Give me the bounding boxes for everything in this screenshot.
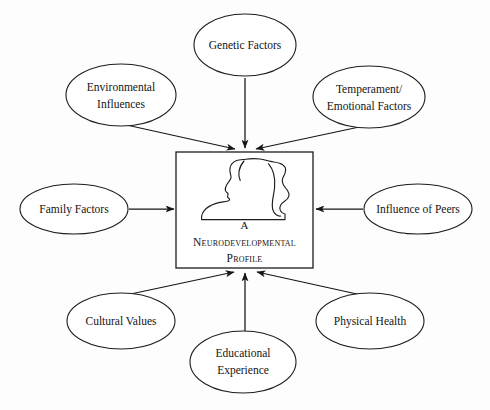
node-influence-of-peers[interactable]: Influence of Peers [364, 184, 472, 234]
arrow-temperament-emotional-factors [256, 126, 364, 149]
node-temperament-emotional-factors-shape [313, 66, 425, 128]
center-node[interactable]: A Neurodevelopmental Profile [176, 152, 313, 268]
node-environmental-influences-shape [66, 64, 176, 126]
node-genetic-factors-label-line1: Genetic Factors [209, 39, 282, 51]
node-physical-health-label-line1: Physical Health [334, 315, 407, 328]
node-family-factors-label-line1: Family Factors [39, 203, 109, 216]
scan-speck [403, 232, 405, 234]
center-title-line2: Neurodevelopmental [193, 236, 296, 248]
neurodevelopmental-profile-diagram: A Neurodevelopmental Profile Genetic Fac… [0, 0, 490, 410]
node-educational-experience-label-line2: Experience [217, 364, 269, 377]
arrow-cultural-values [126, 272, 234, 295]
node-cultural-values[interactable]: Cultural Values [67, 293, 175, 349]
node-environmental-influences[interactable]: Environmental Influences [66, 64, 176, 126]
node-temperament-emotional-factors-label-line1: Temperament/ [336, 83, 403, 96]
node-educational-experience-shape [190, 331, 296, 393]
node-family-factors[interactable]: Family Factors [20, 184, 128, 234]
node-environmental-influences-label-line2: Influences [97, 98, 145, 110]
center-title-line1: A [240, 219, 248, 231]
node-environmental-influences-label-line1: Environmental [87, 81, 155, 93]
node-temperament-emotional-factors-label-line2: Emotional Factors [327, 100, 412, 112]
node-influence-of-peers-label-line1: Influence of Peers [376, 203, 460, 215]
node-cultural-values-label-line1: Cultural Values [85, 315, 157, 327]
diagram-canvas: A Neurodevelopmental Profile Genetic Fac… [0, 0, 490, 410]
node-temperament-emotional-factors[interactable]: Temperament/ Emotional Factors [313, 66, 425, 128]
node-educational-experience-label-line1: Educational [216, 347, 271, 359]
arrow-environmental-influences [122, 124, 235, 149]
arrow-physical-health [257, 272, 366, 296]
center-title-line3: Profile [227, 252, 263, 264]
node-physical-health[interactable]: Physical Health [316, 293, 424, 349]
node-educational-experience[interactable]: Educational Experience [190, 331, 296, 393]
node-genetic-factors[interactable]: Genetic Factors [194, 14, 296, 76]
